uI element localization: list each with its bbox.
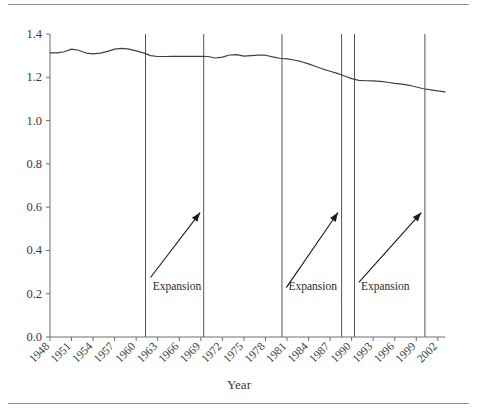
- expansion-arrow-shaft: [286, 213, 338, 288]
- x-tick-label: 1969: [177, 340, 202, 365]
- data-line-ratio: [50, 48, 445, 92]
- x-axis-tick-labels: 1948195119541957196019631966196919721975…: [27, 340, 440, 365]
- y-tick-label: 0.4: [26, 243, 42, 257]
- y-tick-label: 1.0: [26, 114, 42, 128]
- x-tick-label: 1999: [393, 340, 418, 365]
- expansion-arrow-head: [330, 213, 338, 222]
- y-tick-label: 0.2: [26, 287, 42, 301]
- x-tick-label: 1966: [156, 340, 181, 365]
- x-tick-label: 1951: [48, 340, 73, 365]
- expansion-label: Expansion: [288, 280, 337, 293]
- expansion-annotation-2: Expansion: [286, 213, 338, 294]
- expansion-arrow-shaft: [151, 213, 201, 278]
- expansion-label: Expansion: [153, 280, 202, 293]
- expansion-annotation-3: Expansion: [359, 213, 421, 294]
- annotations-layer: ExpansionExpansionExpansion: [151, 213, 422, 294]
- y-tick-label: 0.6: [26, 200, 42, 214]
- expansion-label: Expansion: [361, 280, 410, 293]
- y-tick-label: 0.8: [26, 157, 42, 171]
- y-tick-label: 1.4: [26, 27, 42, 41]
- x-tick-label: 1972: [199, 340, 224, 365]
- y-axis-tick-labels: 0.00.20.40.60.81.01.21.4: [26, 27, 42, 344]
- x-tick-label: 1996: [371, 340, 396, 365]
- data-series-layer: [50, 48, 445, 92]
- x-tick-label: 1954: [70, 340, 95, 365]
- x-tick-label: 1981: [264, 340, 289, 365]
- expansion-arrow-head: [192, 213, 200, 222]
- axis-ticks: [46, 34, 438, 341]
- expansion-arrow-shaft: [359, 213, 421, 283]
- expansion-annotation-1: Expansion: [151, 213, 202, 294]
- x-tick-label: 2002: [414, 340, 439, 365]
- x-axis-title: Year: [227, 377, 252, 392]
- line-chart: 0.00.20.40.60.81.01.21.4 194819511954195…: [0, 0, 477, 416]
- x-tick-label: 1978: [242, 340, 267, 365]
- x-tick-label: 1984: [285, 340, 310, 365]
- x-tick-label: 1957: [91, 340, 116, 365]
- x-tick-label: 1960: [113, 340, 138, 365]
- x-tick-label: 1993: [350, 340, 375, 365]
- x-tick-label: 1987: [307, 340, 332, 365]
- figure-container: 0.00.20.40.60.81.01.21.4 194819511954195…: [0, 0, 477, 416]
- y-tick-label: 1.2: [26, 70, 42, 84]
- x-tick-label: 1963: [134, 340, 159, 365]
- x-tick-label: 1990: [328, 340, 353, 365]
- x-tick-label: 1975: [221, 340, 246, 365]
